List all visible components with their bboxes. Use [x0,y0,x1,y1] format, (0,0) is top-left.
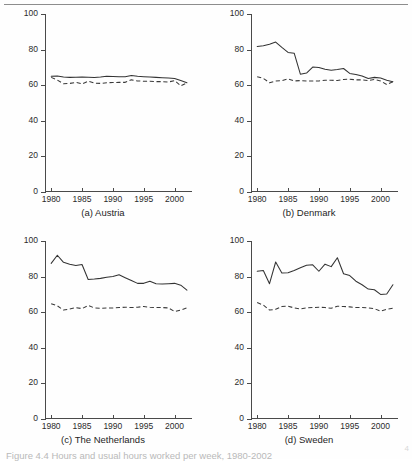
x-axis-tick [144,415,145,419]
y-axis-tick [41,121,46,122]
x-axis-tick-label: 1990 [302,422,336,431]
x-axis-tick [51,415,52,419]
x-axis-tick-label: 1980 [34,195,68,204]
y-axis-tick [41,14,46,15]
x-axis-tick-label: 1995 [333,195,367,204]
x-axis-tick-label: 1985 [65,195,99,204]
y-axis-tick [41,192,46,193]
x-axis-tick-label: 1980 [240,422,274,431]
series-line-dashed [51,304,187,312]
x-axis-tick-label: 1990 [96,422,130,431]
panel-title: (b) Denmark [206,207,412,218]
y-axis-tick [41,348,46,349]
x-axis-tick-label: 2000 [364,195,398,204]
y-axis-tick [247,348,252,349]
x-axis-tick-label: 1985 [271,195,305,204]
x-axis-tick [175,188,176,192]
y-axis-tick [41,277,46,278]
x-axis-tick-label: 2000 [158,422,192,431]
y-axis-tick [247,383,252,384]
y-axis-tick [41,312,46,313]
x-axis-tick [257,188,258,192]
x-axis-tick [257,415,258,419]
y-axis-tick [41,85,46,86]
x-axis-tick [350,415,351,419]
x-axis-tick-label: 1980 [34,422,68,431]
series-line-solid [257,42,393,82]
series-line-solid [51,255,187,290]
x-axis-tick [51,188,52,192]
x-axis-tick [144,188,145,192]
y-axis-tick [41,50,46,51]
panel-austria: 020406080100 (a) Austria 198019851990199… [0,0,206,229]
panel-title: (c) The Netherlands [0,434,206,445]
x-axis-tick-label: 1995 [333,422,367,431]
figure-caption: Figure 4.4 Hours and usual hours worked … [6,450,406,461]
y-axis-tick [247,192,252,193]
x-axis-tick-label: 1990 [302,195,336,204]
y-axis-tick [247,241,252,242]
x-axis-tick-label: 1980 [240,195,274,204]
page-corner-mark: 4 [405,444,409,453]
series-line-dashed [257,303,393,312]
x-axis-tick [350,188,351,192]
x-axis-tick [113,415,114,419]
series-line-solid [257,258,393,295]
series-line-dashed [51,77,187,86]
y-axis-tick [41,156,46,157]
x-axis-tick-label: 1995 [127,195,161,204]
y-axis-tick [247,85,252,86]
x-axis-tick-label: 2000 [364,422,398,431]
y-axis-tick [247,277,252,278]
x-axis-tick [82,415,83,419]
y-axis-tick [247,50,252,51]
x-axis-tick [381,188,382,192]
y-axis-tick [247,121,252,122]
x-axis-tick [319,415,320,419]
x-axis-tick-label: 1995 [127,422,161,431]
x-axis-tick [113,188,114,192]
x-axis-tick-label: 1985 [65,422,99,431]
panel-sweden: 020406080100 (d) Sweden 1980198519901995… [206,227,412,456]
x-axis-tick [288,188,289,192]
panel-netherlands: 020406080100 (c) The Netherlands 1980198… [0,227,206,456]
y-axis-tick [247,419,252,420]
y-axis-tick [247,14,252,15]
x-axis-tick-label: 2000 [158,195,192,204]
y-axis-tick [247,156,252,157]
panel-title: (d) Sweden [206,434,412,445]
panel-title: (a) Austria [0,207,206,218]
x-axis-tick-label: 1990 [96,195,130,204]
y-axis-tick [41,419,46,420]
y-axis-tick [247,312,252,313]
panel-denmark: 020406080100 (b) Denmark 198019851990199… [206,0,412,229]
x-axis-tick [175,415,176,419]
x-axis-tick-label: 1985 [271,422,305,431]
y-axis-tick [41,383,46,384]
x-axis-tick [381,415,382,419]
x-axis-tick [82,188,83,192]
x-axis-tick [288,415,289,419]
x-axis-tick [319,188,320,192]
y-axis-tick [41,241,46,242]
